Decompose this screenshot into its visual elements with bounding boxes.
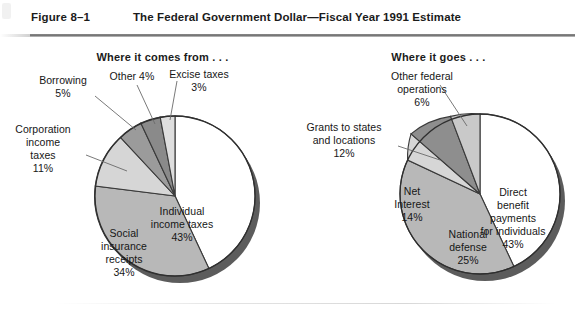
- figure-root: Figure 8–1 The Federal Government Dollar…: [0, 0, 575, 312]
- header-rule: [30, 34, 575, 37]
- figure-header: Figure 8–1 The Federal Government Dollar…: [0, 0, 575, 42]
- leader-line-other: [137, 85, 155, 124]
- label-corporation-income-taxes: Corporation income taxes 11%: [4, 123, 82, 175]
- page-edge-artifact: [2, 3, 11, 19]
- label-social-insurance-receipts: Social insurance receipts 34%: [82, 227, 166, 279]
- header-rule-fade: [0, 34, 31, 37]
- label-other-federal-operations: Other federal operations 6%: [379, 70, 465, 109]
- label-excise-taxes: Excise taxes 3%: [161, 68, 237, 94]
- leader-line-borrowing: [95, 96, 136, 130]
- label-national-defense: National defense 25%: [429, 228, 507, 267]
- label-borrowing: Borrowing 5%: [32, 74, 94, 100]
- label-net-interest: Net Interest 14%: [383, 185, 441, 224]
- figure-title: The Federal Government Dollar—Fiscal Yea…: [133, 11, 461, 23]
- figure-number: Figure 8–1: [31, 11, 90, 23]
- chart-panel-spending: Where it goes . . . Direct benefit payme…: [288, 42, 575, 312]
- page-bottom-hairline: [55, 303, 555, 304]
- chart-panel-sources: Where it comes from . . . Individual: [0, 42, 287, 312]
- label-other: Other 4%: [104, 70, 160, 83]
- label-grants-to-states: Grants to states and locations 12%: [288, 121, 400, 160]
